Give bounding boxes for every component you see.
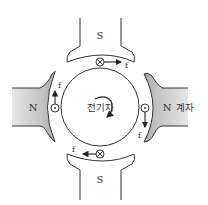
field-label: 계자 [176,102,194,113]
pole-bottom-label: S [97,174,104,185]
pole-right-label: N [163,102,172,113]
armature-label: 전기자 [87,102,114,113]
motor-diagram: S S N N 계자 전기자 f f f [0,0,208,205]
current-out-of-page-icon [144,107,146,109]
conductor-bottom: f [72,145,104,158]
pole-left-label: N [29,102,38,113]
pole-bottom-s: S [67,154,135,200]
pole-top-label: S [97,30,104,41]
conductor-left: f [51,81,62,112]
force-label: f [72,145,76,154]
force-label: f [58,81,62,90]
motor-diagram-svg: S S N N 계자 전기자 f f f [0,0,208,205]
pole-top-s: S [67,18,135,62]
force-label: f [125,61,129,70]
pole-left-n: N [12,71,55,142]
force-label: f [138,131,142,140]
current-out-of-page-icon [54,107,56,109]
